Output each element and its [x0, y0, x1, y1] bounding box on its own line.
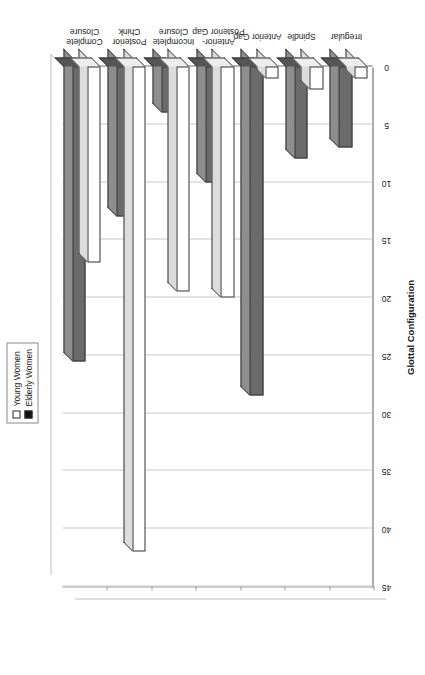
value-tick-label: 35 — [374, 466, 398, 476]
bar-young — [309, 66, 322, 89]
value-tick-label: 5 — [374, 120, 398, 130]
plot-depth-left — [62, 586, 386, 599]
legend-swatch-icon-young — [12, 410, 20, 418]
chart-canvas: Young Women Elderly Women 05101520253035… — [0, 0, 425, 675]
bar-front-face — [176, 66, 189, 291]
bar-young — [87, 66, 100, 262]
value-tick-label: 15 — [374, 235, 398, 245]
legend-swatch-icon-elderly — [24, 410, 32, 418]
bar-top-face — [240, 48, 249, 395]
category-tick — [195, 586, 196, 590]
chart-legend: Young Women Elderly Women — [6, 342, 38, 423]
legend-item-young-women: Young Women — [10, 349, 22, 418]
bar-top-face — [107, 48, 116, 216]
value-tick-label: 30 — [374, 409, 398, 419]
bar-front-face — [249, 66, 262, 395]
bar-top-face — [196, 48, 205, 182]
value-tick-label: 20 — [374, 293, 398, 303]
value-axis-title: Incidence (%) — [0, 648, 62, 659]
bar-top-face — [211, 48, 220, 297]
bar-top-face — [63, 48, 72, 361]
value-tick-label: 10 — [374, 178, 398, 188]
legend-item-elderly-women: Elderly Women — [22, 349, 34, 418]
bar-top-face — [123, 48, 132, 551]
value-tick-label: 25 — [374, 351, 398, 361]
gridline — [62, 354, 372, 355]
gridline — [62, 469, 372, 470]
category-axis-title: Glottal Configuration — [404, 67, 415, 587]
bar-young — [265, 66, 278, 78]
bar-young — [220, 66, 233, 297]
value-tick-label: 40 — [374, 524, 398, 534]
bar-elderly — [338, 66, 351, 147]
plot-area — [62, 67, 373, 587]
gridline — [62, 296, 372, 297]
gridline — [62, 412, 372, 413]
gridline — [62, 527, 372, 528]
category-tick — [284, 586, 285, 590]
gridline — [62, 585, 372, 586]
bar-elderly — [249, 66, 262, 395]
bar-front-face — [354, 66, 367, 78]
category-label: Irregular — [304, 32, 388, 42]
bar-front-face — [338, 66, 351, 147]
bar-top-face — [167, 48, 176, 291]
chart-area: Young Women Elderly Women 05101520253035… — [0, 0, 425, 675]
bar-front-face — [265, 66, 278, 78]
legend-label-young: Young Women — [11, 351, 21, 406]
bar-front-face — [87, 66, 100, 262]
value-tick-label: 45 — [374, 582, 398, 592]
legend-label-elderly: Elderly Women — [23, 349, 33, 406]
category-tick — [106, 586, 107, 590]
category-tick — [240, 586, 241, 590]
bar-young — [132, 66, 145, 551]
plot-depth-top — [50, 53, 63, 587]
category-tick — [329, 586, 330, 590]
bar-top-face — [78, 48, 87, 262]
category-tick — [151, 586, 152, 590]
bar-front-face — [132, 66, 145, 551]
bar-young — [176, 66, 189, 291]
bar-young — [354, 66, 367, 78]
bar-front-face — [309, 66, 322, 89]
bar-front-face — [220, 66, 233, 297]
value-tick-label: 0 — [374, 62, 398, 72]
